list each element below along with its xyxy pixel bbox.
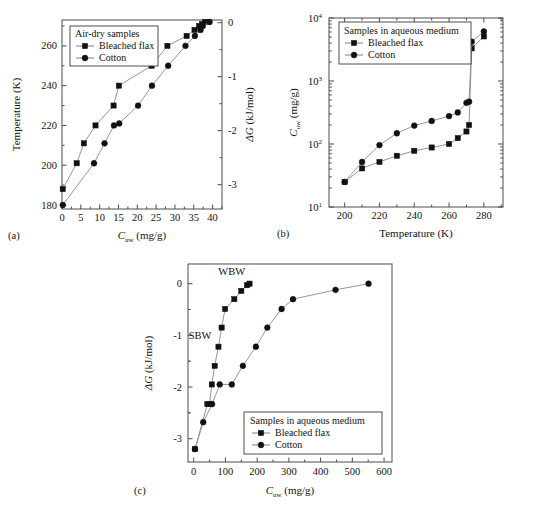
data-point-cotton xyxy=(200,23,206,29)
panel-c-legend-title: Samples in aqueous medium xyxy=(250,415,365,426)
data-point-bleached-flax xyxy=(394,153,399,158)
y-right-tick-label: -3 xyxy=(228,179,237,190)
x-tick-label: 260 xyxy=(441,210,457,221)
data-point-bleached-flax xyxy=(165,43,170,48)
data-point-cotton xyxy=(279,306,285,312)
data-point-cotton xyxy=(209,401,215,407)
x-tick-label: 500 xyxy=(344,466,360,477)
panel-c-annotation-sbw: SBW xyxy=(189,330,212,341)
panel-a-label: (a) xyxy=(8,230,20,242)
y-tick-label: 220 xyxy=(41,120,57,131)
panel-b-legend-item-label: Bleached flax xyxy=(368,37,423,48)
y-tick-label: -2 xyxy=(173,382,182,393)
data-point-bleached-flax xyxy=(111,103,116,108)
data-point-cotton xyxy=(342,179,348,185)
data-point-cotton xyxy=(200,419,206,425)
x-tick-label: 200 xyxy=(337,210,353,221)
data-point-cotton xyxy=(333,287,339,293)
data-point-cotton xyxy=(60,202,66,208)
panel-c-legend-item-label: Cotton xyxy=(275,439,302,450)
legend-marker-cotton xyxy=(82,55,88,61)
data-point-bleached-flax xyxy=(239,288,244,293)
y-right-tick-label: 0 xyxy=(228,17,233,28)
data-point-bleached-flax xyxy=(209,382,214,387)
x-tick-label: 0 xyxy=(191,466,196,477)
data-point-bleached-flax xyxy=(184,33,189,38)
x-tick-label: 240 xyxy=(406,210,422,221)
panel-c-svg: 01002003004005006000-1-2-3WBWSBWΔG (kJ/m… xyxy=(130,250,430,510)
x-tick-label: 600 xyxy=(376,466,392,477)
data-point-cotton xyxy=(366,281,372,287)
panel-a-y-axis-right-title: ΔG (kJ/mol) xyxy=(243,87,256,143)
data-point-bleached-flax xyxy=(466,122,471,127)
panel-a-x-axis-title: Cuw (mg/g) xyxy=(118,229,167,244)
data-point-cotton xyxy=(192,446,198,452)
panel-b-svg: 200220240260280101102103104Cuw (mg/g)Tem… xyxy=(271,0,542,255)
legend-marker-bleached-flax xyxy=(82,43,87,48)
data-point-cotton xyxy=(466,99,472,105)
data-point-cotton xyxy=(411,123,417,129)
data-point-bleached-flax xyxy=(212,363,217,368)
data-point-cotton xyxy=(102,140,108,146)
x-tick-label: 280 xyxy=(476,210,492,221)
data-point-bleached-flax xyxy=(60,187,65,192)
data-point-bleached-flax xyxy=(223,306,228,311)
x-tick-label: 400 xyxy=(313,466,329,477)
x-tick-label: 300 xyxy=(281,466,297,477)
data-point-cotton xyxy=(394,130,400,136)
panel-b-label: (b) xyxy=(277,228,290,240)
x-tick-label: 200 xyxy=(249,466,265,477)
y-tick-label: 102 xyxy=(308,138,323,150)
data-point-bleached-flax xyxy=(81,141,86,146)
y-tick-label: -3 xyxy=(173,433,182,444)
data-point-cotton xyxy=(111,123,117,129)
data-point-cotton xyxy=(359,159,365,165)
y-right-tick-label: -2 xyxy=(228,125,237,136)
y-tick-label: 103 xyxy=(308,75,323,87)
panel-a-legend-title: Air-dry samples xyxy=(75,28,140,39)
data-point-cotton xyxy=(253,344,259,350)
data-point-cotton xyxy=(217,382,223,388)
x-tick-label: 15 xyxy=(113,212,124,223)
data-point-cotton xyxy=(290,296,296,302)
panel-c-aqueous-medium-free-energy: 01002003004005006000-1-2-3WBWSBWΔG (kJ/m… xyxy=(130,250,430,510)
data-point-cotton xyxy=(481,29,487,35)
data-point-cotton xyxy=(207,19,213,25)
data-point-cotton xyxy=(264,325,270,331)
panel-b-x-axis-title: Temperature (K) xyxy=(379,227,453,240)
data-point-bleached-flax xyxy=(464,129,469,134)
data-point-cotton xyxy=(229,382,235,388)
data-point-bleached-flax xyxy=(93,123,98,128)
data-point-bleached-flax xyxy=(232,297,237,302)
x-tick-label: 25 xyxy=(151,212,162,223)
data-point-cotton xyxy=(377,142,383,148)
y-tick-label: 180 xyxy=(41,200,57,211)
data-point-bleached-flax xyxy=(216,344,221,349)
legend-marker-bleached-flax xyxy=(258,430,263,435)
x-tick-label: 5 xyxy=(78,212,83,223)
x-tick-label: 40 xyxy=(207,212,218,223)
data-point-bleached-flax xyxy=(446,141,451,146)
data-point-cotton xyxy=(446,113,452,119)
data-point-cotton xyxy=(429,118,435,124)
panel-a-legend-item-label: Cotton xyxy=(99,52,126,63)
data-point-cotton xyxy=(455,110,461,116)
panel-c-legend-item-label: Bleached flax xyxy=(275,427,330,438)
panel-b-legend-title: Samples in aqueous medium xyxy=(344,25,459,36)
legend-marker-cotton xyxy=(351,52,357,58)
panel-c-label: (c) xyxy=(134,485,146,497)
data-point-bleached-flax xyxy=(429,145,434,150)
data-point-cotton xyxy=(91,160,97,166)
panel-a-legend-item-label: Bleached flax xyxy=(99,40,154,51)
y-tick-label: 101 xyxy=(308,201,323,213)
data-point-bleached-flax xyxy=(455,136,460,141)
data-point-bleached-flax xyxy=(116,83,121,88)
panel-a-svg: 05101520253035401802002202402600-1-2-3Te… xyxy=(0,0,271,255)
panel-c-annotation-wbw: WBW xyxy=(218,266,245,277)
data-point-cotton xyxy=(116,121,122,127)
data-point-bleached-flax xyxy=(219,325,224,330)
panel-b-legend-item-label: Cotton xyxy=(368,49,395,60)
legend-marker-bleached-flax xyxy=(351,40,356,45)
data-point-cotton xyxy=(192,33,198,39)
x-tick-label: 30 xyxy=(170,212,181,223)
